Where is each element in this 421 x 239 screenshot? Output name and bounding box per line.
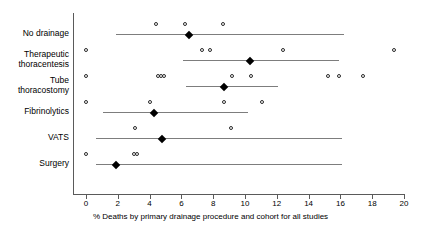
cohort-point-marker xyxy=(249,74,253,78)
confidence-interval-line xyxy=(96,164,342,165)
y-axis-category-no-drainage: No drainage xyxy=(0,28,69,38)
x-axis-line xyxy=(73,194,405,195)
y-axis-line xyxy=(73,13,74,195)
cohort-point-marker xyxy=(135,152,139,156)
x-tick-label: 2 xyxy=(108,199,128,209)
y-axis-category-vats: VATS xyxy=(0,132,69,142)
x-tick-label: 4 xyxy=(140,199,160,209)
y-axis-category-surgery: Surgery xyxy=(0,158,69,168)
category-label-line: thoracentesis xyxy=(0,59,69,69)
y-axis-category-therapeutic-thoracentesis: Therapeuticthoracentesis xyxy=(0,49,69,69)
x-axis-title: % Deaths by primary drainage procedure a… xyxy=(0,211,421,222)
cohort-point-marker xyxy=(84,48,88,52)
confidence-interval-line xyxy=(183,60,339,61)
y-axis-category-fibrinolytics: Fibrinolytics xyxy=(0,106,69,116)
cohort-point-marker xyxy=(162,74,166,78)
cohort-point-marker xyxy=(148,100,152,104)
cohort-point-marker xyxy=(133,126,137,130)
cohort-point-marker xyxy=(154,22,158,26)
cohort-point-marker xyxy=(230,74,234,78)
pooled-estimate-marker xyxy=(150,109,158,117)
scatter-chart: 02468101214161820 No drainageTherapeutic… xyxy=(0,0,421,239)
x-tick-label: 6 xyxy=(171,199,191,209)
pooled-estimate-marker xyxy=(246,57,254,65)
cohort-point-marker xyxy=(200,48,204,52)
pooled-estimate-marker xyxy=(220,83,228,91)
category-label-line: Surgery xyxy=(0,158,69,168)
cohort-point-marker xyxy=(84,152,88,156)
category-label-line: thoracostomy xyxy=(0,85,69,95)
pooled-estimate-marker xyxy=(158,135,166,143)
cohort-point-marker xyxy=(326,74,330,78)
category-label-line: Tube xyxy=(0,75,69,85)
category-label-line: No drainage xyxy=(0,28,69,38)
cohort-point-marker xyxy=(84,74,88,78)
confidence-interval-line xyxy=(186,86,278,87)
cohort-point-marker xyxy=(260,100,264,104)
cohort-point-marker xyxy=(229,126,233,130)
confidence-interval-line xyxy=(116,34,343,35)
confidence-interval-line xyxy=(96,138,342,139)
x-tick-label: 14 xyxy=(299,199,319,209)
x-tick-label: 8 xyxy=(203,199,223,209)
category-label-line: VATS xyxy=(0,132,69,142)
confidence-interval-line xyxy=(103,112,248,113)
x-tick-label: 16 xyxy=(330,199,350,209)
x-tick-label: 20 xyxy=(394,199,414,209)
y-axis-category-tube-thoracostomy: Tubethoracostomy xyxy=(0,75,69,95)
category-label-line: Fibrinolytics xyxy=(0,106,69,116)
plot-area: 02468101214161820 No drainageTherapeutic… xyxy=(0,0,421,239)
x-tick-label: 0 xyxy=(76,199,96,209)
cohort-point-marker xyxy=(221,22,225,26)
x-tick-label: 10 xyxy=(235,199,255,209)
pooled-estimate-marker xyxy=(185,31,193,39)
cohort-point-marker xyxy=(281,48,285,52)
cohort-point-marker xyxy=(84,100,88,104)
x-tick-label: 12 xyxy=(267,199,287,209)
cohort-point-marker xyxy=(183,22,187,26)
cohort-point-marker xyxy=(222,100,226,104)
cohort-point-marker xyxy=(337,74,341,78)
cohort-point-marker xyxy=(392,48,396,52)
category-label-line: Therapeutic xyxy=(0,49,69,59)
cohort-point-marker xyxy=(361,74,365,78)
cohort-point-marker xyxy=(208,48,212,52)
x-tick-label: 18 xyxy=(362,199,382,209)
pooled-estimate-marker xyxy=(112,161,120,169)
